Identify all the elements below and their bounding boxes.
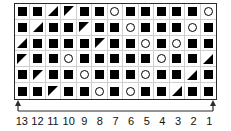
grid-cell bbox=[154, 67, 169, 83]
axis-line-group bbox=[15, 100, 216, 111]
filled-square-icon bbox=[157, 39, 166, 48]
grid-cell bbox=[61, 67, 76, 83]
grid-cell bbox=[185, 51, 200, 67]
filled-square-icon bbox=[188, 54, 197, 63]
x-axis-tick-label: 5 bbox=[139, 115, 155, 128]
filled-triangle-upper-left-icon bbox=[33, 70, 43, 80]
filled-square-icon bbox=[33, 87, 42, 96]
filled-square-icon bbox=[95, 54, 104, 63]
grid-cell bbox=[154, 20, 169, 36]
filled-square-icon bbox=[49, 39, 58, 48]
grid-cell bbox=[123, 83, 138, 99]
grid-cell bbox=[154, 36, 169, 52]
grid-cell bbox=[30, 67, 45, 83]
filled-square-icon bbox=[49, 70, 58, 79]
filled-square-icon bbox=[172, 23, 181, 32]
filled-square-icon bbox=[95, 7, 104, 16]
filled-square-icon bbox=[49, 54, 58, 63]
filled-square-icon bbox=[110, 23, 119, 32]
filled-square-icon bbox=[126, 70, 135, 79]
filled-square-icon bbox=[126, 39, 135, 48]
filled-triangle-lower-right-icon bbox=[17, 38, 27, 48]
open-circle-icon bbox=[141, 70, 150, 79]
grid-cell bbox=[170, 4, 185, 20]
grid-cell bbox=[46, 51, 61, 67]
grid-cell bbox=[46, 36, 61, 52]
filled-square-icon bbox=[172, 54, 181, 63]
x-axis-tick-label: 13 bbox=[14, 115, 30, 128]
grid-cell bbox=[170, 67, 185, 83]
filled-triangle-upper-left-icon bbox=[48, 86, 58, 96]
grid-cell bbox=[201, 83, 216, 99]
grid-cell bbox=[201, 20, 216, 36]
filled-square-icon bbox=[80, 87, 89, 96]
open-circle-icon bbox=[64, 54, 73, 63]
filled-square-icon bbox=[80, 7, 89, 16]
grid-cell bbox=[46, 67, 61, 83]
filled-triangle-lower-right-icon bbox=[187, 70, 197, 80]
grid-cell bbox=[154, 83, 169, 99]
x-axis-tick-label: 3 bbox=[170, 115, 186, 128]
open-circle-icon bbox=[126, 23, 135, 32]
x-axis-tick-labels: 13121110987654321 bbox=[14, 113, 217, 129]
filled-triangle-lower-right-icon bbox=[48, 6, 58, 16]
filled-square-icon bbox=[204, 23, 213, 32]
filled-square-icon bbox=[18, 7, 27, 16]
grid-cell bbox=[46, 4, 61, 20]
grid-cell bbox=[15, 51, 30, 67]
grid-cell bbox=[30, 51, 45, 67]
grid-cell bbox=[92, 20, 107, 36]
grid-cell bbox=[30, 36, 45, 52]
filled-square-icon bbox=[157, 23, 166, 32]
grid-cell bbox=[139, 4, 154, 20]
grid-cell bbox=[108, 51, 123, 67]
filled-square-icon bbox=[188, 39, 197, 48]
grid-cell bbox=[123, 4, 138, 20]
filled-square-icon bbox=[188, 7, 197, 16]
x-axis-tick-label: 1 bbox=[201, 115, 217, 128]
grid-cell bbox=[30, 20, 45, 36]
grid-cell bbox=[123, 51, 138, 67]
grid-cell bbox=[185, 67, 200, 83]
filled-square-icon bbox=[188, 87, 197, 96]
grid-cell bbox=[108, 83, 123, 99]
filled-triangle-upper-left-icon bbox=[79, 22, 89, 32]
grid-cell bbox=[15, 20, 30, 36]
grid-cell bbox=[77, 36, 92, 52]
filled-square-icon bbox=[172, 7, 181, 16]
grid-cell bbox=[15, 83, 30, 99]
symbol-grid-figure: 13121110987654321 bbox=[0, 0, 231, 131]
open-circle-icon bbox=[80, 70, 89, 79]
grid-cell bbox=[77, 4, 92, 20]
grid-cell bbox=[108, 36, 123, 52]
filled-triangle-upper-left-icon bbox=[64, 6, 74, 16]
x-axis-tick-label: 7 bbox=[108, 115, 124, 128]
filled-square-icon bbox=[18, 87, 27, 96]
filled-square-icon bbox=[110, 54, 119, 63]
x-axis-tick-label: 9 bbox=[76, 115, 92, 128]
filled-square-icon bbox=[95, 70, 104, 79]
filled-square-icon bbox=[204, 87, 213, 96]
filled-square-icon bbox=[110, 70, 119, 79]
grid-cell bbox=[108, 20, 123, 36]
filled-square-icon bbox=[80, 54, 89, 63]
filled-square-icon bbox=[95, 23, 104, 32]
filled-triangle-lower-right-icon bbox=[203, 54, 213, 64]
filled-square-icon bbox=[157, 87, 166, 96]
grid-cell bbox=[123, 67, 138, 83]
filled-square-icon bbox=[64, 70, 73, 79]
filled-triangle-upper-left-icon bbox=[17, 54, 27, 64]
grid-cell bbox=[30, 83, 45, 99]
grid-cell bbox=[77, 20, 92, 36]
grid-cell bbox=[61, 4, 76, 20]
filled-square-icon bbox=[64, 39, 73, 48]
filled-square-icon bbox=[33, 54, 42, 63]
grid-cell bbox=[30, 4, 45, 20]
grid-cell bbox=[170, 51, 185, 67]
symbol-grid bbox=[14, 3, 217, 100]
open-circle-icon bbox=[172, 39, 181, 48]
x-axis-tick-label: 6 bbox=[123, 115, 139, 128]
open-circle-icon bbox=[126, 87, 135, 96]
grid-cell bbox=[15, 67, 30, 83]
filled-square-icon bbox=[157, 70, 166, 79]
